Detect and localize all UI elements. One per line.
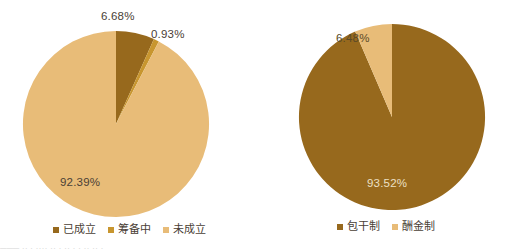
legend-item-contract-system[interactable]: 包干制 — [337, 221, 380, 232]
figure-canvas: 6.68% 0.93% 92.39% 已成立 筹备中 未成立 93.52% — [0, 0, 513, 249]
legend-label: 已成立 — [63, 224, 96, 235]
legend-item-established[interactable]: 已成立 — [53, 224, 96, 235]
legend-swatch-icon — [337, 224, 343, 230]
pie-slice-label-established: 6.68% — [101, 11, 135, 23]
legend-label: 筹备中 — [118, 224, 151, 235]
pie-chart-establishment-status[interactable] — [22, 30, 210, 218]
legend-swatch-icon — [53, 227, 59, 233]
chart-panel-left: 6.68% 0.93% 92.39% 已成立 筹备中 未成立 — [0, 0, 258, 249]
legend-right: 包干制 酬金制 — [258, 221, 513, 232]
legend-swatch-icon — [108, 227, 114, 233]
legend-item-preparing[interactable]: 筹备中 — [108, 224, 151, 235]
pie-slice-label-not-established: 92.39% — [60, 177, 100, 189]
pie-slice-label-contract-system: 93.52% — [367, 178, 407, 190]
chart-panel-right — [258, 0, 513, 249]
legend-label: 未成立 — [173, 224, 206, 235]
legend-label: 包干制 — [347, 221, 380, 232]
pie-slice-label-preparing: 0.93% — [151, 29, 185, 41]
legend-left: 已成立 筹备中 未成立 — [0, 224, 258, 235]
legend-swatch-icon — [163, 227, 169, 233]
legend-swatch-icon — [392, 224, 398, 230]
legend-label: 酬金制 — [402, 221, 435, 232]
legend-item-remuneration-system[interactable]: 酬金制 — [392, 221, 435, 232]
legend-item-not-established[interactable]: 未成立 — [163, 224, 206, 235]
pie-left-svg — [22, 30, 210, 218]
scan-bottom-artifact: ─── ·· · ···· ·· · ·· · · ·· ·· · — [0, 243, 513, 249]
pie-slice-label-remuneration-system: 6.48% — [336, 33, 370, 45]
